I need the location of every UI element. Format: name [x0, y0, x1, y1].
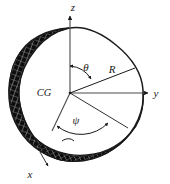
- theta-label: θ: [83, 61, 89, 73]
- y-axis-label: y: [153, 87, 159, 99]
- radius-label-R: R: [108, 63, 116, 75]
- rigid-body-shape: [9, 28, 143, 162]
- coordinate-system-diagram: z y x CG R θ ψ: [0, 0, 170, 184]
- x-axis-label: x: [27, 168, 33, 180]
- psi-label: ψ: [73, 114, 80, 126]
- cg-point: [69, 92, 72, 95]
- z-axis-label: z: [70, 1, 76, 13]
- figure-container: z y x CG R θ ψ: [0, 0, 170, 184]
- cg-label: CG: [37, 87, 52, 98]
